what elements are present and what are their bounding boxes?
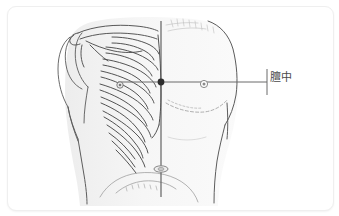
torso-anatomy-illustration <box>8 7 333 210</box>
figure-card: 膻中 <box>7 6 334 211</box>
rib-point-marker <box>117 82 123 88</box>
cv17-point-marker <box>158 79 165 86</box>
nipple-marker <box>200 80 207 87</box>
point-label-danzhong: 膻中 <box>270 71 292 84</box>
navel-marker <box>154 166 168 172</box>
